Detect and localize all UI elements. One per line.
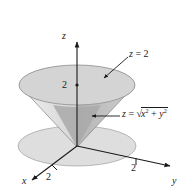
- cone-label-eq: =: [126, 108, 137, 119]
- z-axis-tick-2: [75, 83, 78, 86]
- plane-label-eq: =: [133, 48, 144, 59]
- cone-label-radicand: x2 + y2: [141, 107, 168, 119]
- z-axis-label: z: [62, 31, 66, 41]
- plane-equation-label: z = 2: [129, 49, 149, 59]
- cone-equation-label: z = √x2 + y2: [122, 108, 168, 119]
- figure-graphics: [0, 0, 189, 194]
- x-axis-label: x: [22, 176, 26, 186]
- y-axis-tick-label: 2: [131, 163, 136, 173]
- z-axis-tick-label: 2: [62, 80, 67, 90]
- cone-label-plus: +: [149, 108, 160, 119]
- cone-figure: z = 2 z = √x2 + y2 z y x 2 2 2: [0, 0, 189, 194]
- x-axis-tick-label: 2: [46, 172, 51, 182]
- cone-label-y-exponent: 2: [164, 107, 167, 114]
- plane-label-rhs: 2: [144, 48, 149, 59]
- x-axis-tick-2: [52, 165, 57, 170]
- y-axis-label: y: [172, 176, 176, 186]
